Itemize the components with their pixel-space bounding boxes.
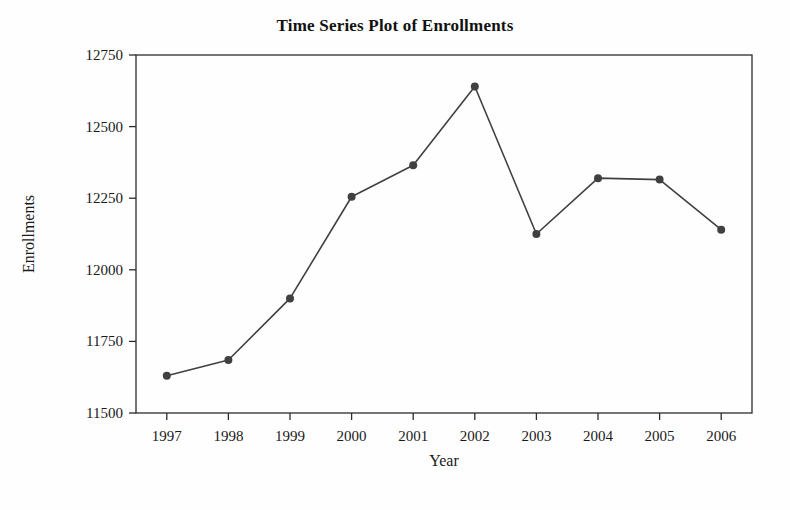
y-tick-label: 11750: [86, 333, 123, 349]
chart-figure: Time Series Plot of Enrollments 11500117…: [0, 0, 790, 510]
data-point: [471, 83, 479, 91]
time-series-plot: 115001175012000122501250012750 199719981…: [0, 0, 790, 510]
x-tick-label: 2006: [706, 428, 737, 444]
data-point: [532, 230, 540, 238]
x-axis-ticks: 1997199819992000200120022003200420052006: [152, 413, 737, 444]
x-tick-label: 2003: [521, 428, 551, 444]
x-tick-label: 1997: [152, 428, 183, 444]
data-point: [409, 161, 417, 169]
y-axis-ticks: 115001175012000122501250012750: [86, 47, 137, 421]
y-tick-label: 11500: [86, 405, 123, 421]
x-tick-label: 2002: [460, 428, 490, 444]
x-tick-label: 2000: [337, 428, 367, 444]
x-tick-label: 2004: [583, 428, 614, 444]
data-point: [656, 176, 664, 184]
data-point: [717, 226, 725, 234]
data-point: [594, 174, 602, 182]
x-tick-label: 2005: [645, 428, 675, 444]
y-tick-label: 12750: [86, 47, 124, 63]
series-line-enrollments: [167, 87, 721, 376]
data-point: [224, 356, 232, 364]
data-point: [286, 294, 294, 302]
data-point: [348, 193, 356, 201]
x-tick-label: 2001: [398, 428, 428, 444]
y-axis-title: Enrollments: [20, 195, 37, 273]
y-tick-label: 12000: [86, 262, 124, 278]
y-tick-label: 12500: [86, 119, 124, 135]
data-point: [163, 372, 171, 380]
x-axis-title: Year: [429, 452, 459, 469]
x-tick-label: 1999: [275, 428, 305, 444]
y-tick-label: 12250: [86, 190, 124, 206]
x-tick-label: 1998: [213, 428, 243, 444]
